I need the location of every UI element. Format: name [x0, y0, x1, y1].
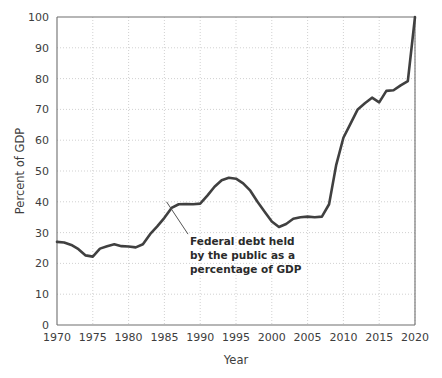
- y-tick-label: 20: [35, 257, 49, 270]
- chart-container: 1970197519801985199019952000200520102015…: [0, 0, 442, 378]
- x-tick-label: 1985: [150, 331, 178, 344]
- y-tick-label: 70: [35, 103, 49, 116]
- x-tick-label: 2015: [365, 331, 393, 344]
- annotation-text-line: percentage of GDP: [190, 263, 302, 275]
- y-tick-label: 40: [35, 196, 49, 209]
- x-tick-label: 2000: [258, 331, 286, 344]
- x-tick-label: 1970: [43, 331, 71, 344]
- y-tick-label: 50: [35, 165, 49, 178]
- x-axis-title: Year: [223, 353, 249, 367]
- x-tick-label: 1980: [115, 331, 143, 344]
- x-tick-label: 1975: [79, 331, 107, 344]
- federal-debt-line-chart: 1970197519801985199019952000200520102015…: [0, 0, 442, 378]
- x-tick-label: 1990: [186, 331, 214, 344]
- y-axis-title: Percent of GDP: [13, 128, 27, 214]
- y-tick-label: 10: [35, 288, 49, 301]
- x-tick-label: 2020: [401, 331, 429, 344]
- y-tick-label: 0: [42, 319, 49, 332]
- annotation-text-line: by the public as a: [190, 249, 295, 261]
- y-tick-label: 100: [28, 11, 49, 24]
- chart-background: [0, 0, 442, 378]
- annotation-text-line: Federal debt held: [190, 235, 295, 247]
- x-axis-tick-labels: 1970197519801985199019952000200520102015…: [43, 331, 429, 344]
- y-tick-label: 30: [35, 227, 49, 240]
- y-tick-label: 60: [35, 134, 49, 147]
- y-tick-label: 90: [35, 42, 49, 55]
- y-tick-label: 80: [35, 73, 49, 86]
- x-tick-label: 1995: [222, 331, 250, 344]
- x-tick-label: 2010: [329, 331, 357, 344]
- x-tick-label: 2005: [294, 331, 322, 344]
